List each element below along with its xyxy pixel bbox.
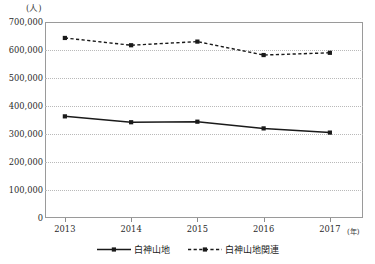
y-axis-tick-label: 0 [1, 213, 43, 223]
y-axis-tick: 0 [0, 213, 43, 223]
x-axis-tick-mark [197, 218, 198, 222]
gridline [45, 134, 363, 135]
legend-item-1[interactable]: 白神山地 [97, 243, 170, 256]
legend-line-swatch-icon [97, 245, 131, 254]
y-axis-tick: 200,000 [0, 157, 43, 167]
legend-label: 白神山地関連 [225, 243, 279, 256]
plot-area-frame [45, 22, 363, 218]
y-axis-tick: 300,000 [0, 129, 43, 139]
y-axis-tick: 500,000 [0, 73, 43, 83]
x-axis-tick-mark [131, 218, 132, 222]
y-axis-tick: 600,000 [0, 45, 43, 55]
x-axis-tick-mark [65, 218, 66, 222]
gridline [45, 78, 363, 79]
y-axis-tick-label: 700,000 [1, 17, 43, 27]
y-axis-tick-label: 500,000 [1, 73, 43, 83]
gridline [45, 190, 363, 191]
x-axis-tick-mark [264, 218, 265, 222]
legend-label: 白神山地 [134, 243, 170, 256]
gridline [45, 162, 363, 163]
y-axis-tick: 400,000 [0, 101, 43, 111]
y-axis-tick-label: 100,000 [1, 185, 43, 195]
chart-legend: 白神山地白神山地関連 [0, 243, 375, 256]
x-axis-tick-label: 2014 [106, 224, 156, 234]
y-axis-tick: 100,000 [0, 185, 43, 195]
gridline [45, 50, 363, 51]
x-axis-tick-label: 2015 [172, 224, 222, 234]
y-axis-tick-label: 300,000 [1, 129, 43, 139]
x-axis-tick-mark [330, 218, 331, 222]
y-axis-tick-label: 600,000 [1, 45, 43, 55]
x-axis-tick-label: 2016 [239, 224, 289, 234]
gridline [45, 106, 363, 107]
x-axis-tick-label: 2013 [40, 224, 90, 234]
x-axis-unit-label: (年) [347, 226, 360, 236]
y-axis-tick-label: 400,000 [1, 101, 43, 111]
y-axis-tick-label: 200,000 [1, 157, 43, 167]
y-axis-unit-label: (人) [26, 1, 42, 13]
y-axis-tick: 700,000 [0, 17, 43, 27]
legend-item-2[interactable]: 白神山地関連 [188, 243, 279, 256]
line-chart: (人) 0100,000200,000300,000400,000500,000… [0, 0, 375, 264]
legend-line-swatch-icon [188, 245, 222, 254]
